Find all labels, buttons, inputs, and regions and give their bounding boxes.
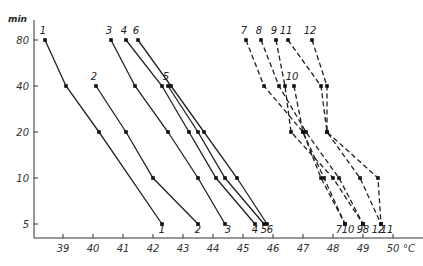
data-point <box>223 176 227 180</box>
curve-label-top: 2 <box>91 71 97 82</box>
curve-5 <box>166 84 266 226</box>
curve-label-top: 12 <box>304 25 317 36</box>
data-point <box>274 38 278 42</box>
curve-line <box>276 40 363 224</box>
data-point <box>169 84 173 88</box>
data-point <box>292 84 296 88</box>
data-point <box>310 38 314 42</box>
curves <box>43 38 383 226</box>
data-point <box>259 38 263 42</box>
curve-line <box>294 86 345 224</box>
x-tick-label: 49 <box>357 243 370 254</box>
curve-label-bottom: 8 <box>363 224 369 235</box>
y-axis-title: min <box>8 14 27 24</box>
x-tick-label: 39 <box>57 243 70 254</box>
curve-label-bottom: 6 <box>267 224 273 235</box>
curve-label-top: 3 <box>106 25 112 36</box>
curve-label-bottom: 10 <box>342 224 355 235</box>
data-point <box>283 84 287 88</box>
data-point <box>94 84 98 88</box>
curve-1 <box>43 38 164 226</box>
data-point <box>151 176 155 180</box>
curve-labels: 123456789101112123456710981211 <box>40 25 394 235</box>
curve-6 <box>136 38 269 226</box>
curve-label-top: 8 <box>256 25 262 36</box>
data-point <box>202 130 206 134</box>
y-tick-label: 20 <box>16 127 29 138</box>
curve-label-bottom: 2 <box>195 224 201 235</box>
data-point <box>331 176 335 180</box>
data-point <box>64 84 68 88</box>
x-tick-label: 46 <box>267 243 280 254</box>
x-tick-label: 44 <box>207 243 220 254</box>
curve-label-bottom: 11 <box>381 224 394 235</box>
curve-label-top: 1 <box>40 25 46 36</box>
data-point <box>136 38 140 42</box>
y-tick-label: 10 <box>16 173 29 184</box>
data-point <box>277 84 281 88</box>
data-point <box>358 176 362 180</box>
curve-line <box>45 40 162 224</box>
x-tick-label: 47 <box>297 243 310 254</box>
x-tick-label: 41 <box>117 243 130 254</box>
data-point <box>97 130 101 134</box>
data-point <box>319 84 323 88</box>
x-tick-label: 40 <box>87 243 100 254</box>
data-point <box>301 130 305 134</box>
chart-canvas: min 510204080 394041424344454647484950°C… <box>0 0 423 266</box>
x-tick-label: 43 <box>177 243 190 254</box>
y-ticks: 510204080 <box>16 35 38 230</box>
data-point <box>376 176 380 180</box>
curve-label-top: 7 <box>241 25 248 36</box>
x-unit-label: °C <box>403 243 415 254</box>
curve-9 <box>274 38 365 226</box>
curve-label-bottom: 1 <box>159 224 165 235</box>
data-point <box>124 130 128 134</box>
data-point <box>187 130 191 134</box>
x-tick-label: 48 <box>327 243 340 254</box>
data-point <box>43 38 47 42</box>
data-point <box>133 84 137 88</box>
data-point <box>325 130 329 134</box>
data-point <box>160 84 164 88</box>
data-point <box>289 130 293 134</box>
data-point <box>286 38 290 42</box>
y-tick-label: 40 <box>16 81 29 92</box>
curve-label-bottom: 4 <box>252 224 258 235</box>
data-point <box>262 84 266 88</box>
curve-label-top: 4 <box>121 25 127 36</box>
curve-line <box>246 40 345 224</box>
data-point <box>325 84 329 88</box>
data-point <box>244 38 248 42</box>
curve-label-top: 5 <box>163 71 169 82</box>
y-tick-label: 80 <box>16 35 29 46</box>
data-point <box>109 38 113 42</box>
data-point <box>124 38 128 42</box>
data-point <box>214 176 218 180</box>
curve-label-top: 11 <box>280 25 293 36</box>
curve-line <box>312 40 381 224</box>
curve-label-top: 9 <box>271 25 277 36</box>
x-ticks: 394041424344454647484950°C <box>57 234 415 254</box>
data-point <box>196 130 200 134</box>
curve-label-top: 6 <box>133 25 139 36</box>
data-point <box>235 176 239 180</box>
curve-2 <box>94 84 200 226</box>
data-point <box>337 176 341 180</box>
y-tick-label: 5 <box>23 219 29 230</box>
curve-label-bottom: 3 <box>225 224 231 235</box>
curve-7 <box>244 38 347 226</box>
curve-10 <box>292 84 347 226</box>
x-tick-label: 45 <box>237 243 250 254</box>
data-point <box>166 130 170 134</box>
curve-label-top: 10 <box>286 71 299 82</box>
x-tick-label: 50 <box>387 243 400 254</box>
data-point <box>196 176 200 180</box>
data-point <box>322 176 326 180</box>
x-tick-label: 42 <box>147 243 160 254</box>
axes: min <box>8 14 423 238</box>
curve-line <box>261 40 363 224</box>
curve-8 <box>259 38 365 226</box>
